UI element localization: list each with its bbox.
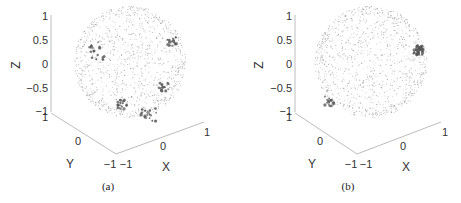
x-tick: −1 <box>360 158 373 170</box>
y-tick: 0 <box>75 135 81 147</box>
x-tick: 1 <box>204 126 210 138</box>
z-tick: 1 <box>286 10 292 22</box>
x-tick: 1 <box>442 126 448 138</box>
sphere-scatter-a <box>74 6 186 123</box>
z-tick: 1 <box>42 10 48 22</box>
y-tick: 0 <box>317 135 323 147</box>
y-axis-line <box>295 113 357 154</box>
y-tick: 1 <box>42 111 48 123</box>
x-axis-label: X <box>162 160 170 174</box>
caption-b: (b) <box>342 180 355 193</box>
y-tick: −1 <box>104 158 117 170</box>
y-tick: 1 <box>286 111 292 123</box>
x-tick: 0 <box>160 140 166 152</box>
z-tick: 0.5 <box>33 34 48 46</box>
z-tick: 0 <box>286 58 292 70</box>
x-tick: −1 <box>120 158 133 170</box>
z-axis-label: Z <box>252 61 266 68</box>
z-tick: −0.5 <box>270 82 292 94</box>
figure: 1 0.5 0 −0.5 −1 Z 1 0 −1 Y −1 0 1 X (a) … <box>0 0 461 203</box>
panel-b: 1 0.5 0 −0.5 −1 Z 1 0 −1 Y −1 0 1 X (b) <box>252 6 448 193</box>
x-axis-label: X <box>402 160 410 174</box>
z-tick: 0 <box>42 58 48 70</box>
y-axis-label: Y <box>308 157 316 171</box>
z-tick: 0.5 <box>277 34 292 46</box>
x-tick: 0 <box>400 140 406 152</box>
y-tick: −1 <box>345 158 358 170</box>
y-axis-label: Y <box>66 157 74 171</box>
caption-a: (a) <box>102 180 115 193</box>
z-tick: −0.5 <box>26 82 48 94</box>
y-axis-line <box>51 113 116 154</box>
z-axis-label: Z <box>9 61 23 68</box>
panel-a: 1 0.5 0 −0.5 −1 Z 1 0 −1 Y −1 0 1 X (a) <box>9 6 210 193</box>
sphere-scatter-b <box>315 6 428 119</box>
